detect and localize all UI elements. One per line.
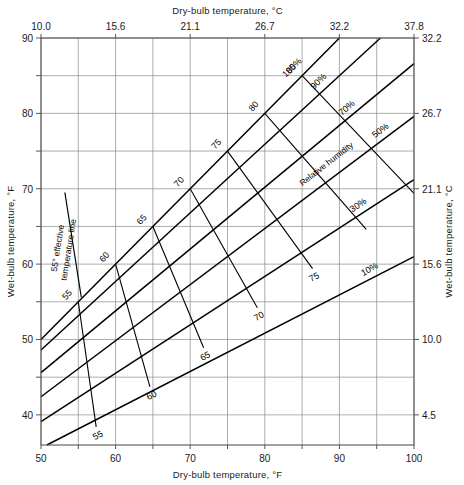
saturation-label-75: 75 xyxy=(209,137,223,151)
x-tick-label-bottom: 100 xyxy=(406,453,423,464)
y-tick-label-right: 21.1 xyxy=(422,184,442,195)
x-tick-label-top: 37.8 xyxy=(404,21,424,32)
x-axis-title-top: Dry-bulb temperature, °C xyxy=(172,5,283,16)
effective-temp-lower-label-70: 70 xyxy=(252,309,266,323)
saturation-label-80: 80 xyxy=(247,99,261,113)
x-tick-label-bottom: 70 xyxy=(185,453,197,464)
effective-temp-lower-labels: 5560657075 xyxy=(91,270,321,442)
rh-percent-labels: 100%90%70%50%30%10% xyxy=(280,56,390,278)
y-tick-label-left: 80 xyxy=(22,108,34,119)
effective-temp-line-55 xyxy=(78,302,96,427)
y-tick-label-right: 32.2 xyxy=(422,33,442,44)
effective-temp-lower-label-75: 75 xyxy=(307,270,321,284)
x-tick-label-bottom: 50 xyxy=(35,453,47,464)
y-tick-label-right: 10.0 xyxy=(422,334,442,345)
y-tick-label-right: 15.6 xyxy=(422,259,442,270)
y-tick-label-left: 60 xyxy=(22,259,34,270)
y-tick-label-left: 90 xyxy=(22,33,34,44)
y-tick-label-right: 4.5 xyxy=(422,410,436,421)
x-tick-label-top: 26.7 xyxy=(255,21,275,32)
y-tick-label-left: 70 xyxy=(22,184,34,195)
effective-temp-lower-label-55: 55 xyxy=(91,428,105,442)
saturation-line-labels: 55606570758085 xyxy=(60,62,298,302)
saturation-label-55: 55 xyxy=(60,288,74,302)
relative-humidity-caption: Relative humidity xyxy=(298,139,356,188)
rh-line-90 xyxy=(41,38,380,350)
y-tick-label-left: 40 xyxy=(22,410,34,421)
grid-lines xyxy=(41,38,414,445)
x-tick-label-bottom: 90 xyxy=(334,453,346,464)
x-tick-label-top: 10.0 xyxy=(31,21,51,32)
saturation-label-60: 60 xyxy=(97,250,111,264)
effective-temp-line-75 xyxy=(228,151,313,269)
y-axis-title-right: Wet-bulb temperature, °C xyxy=(443,185,454,297)
chart-canvas: 55606570758085100%90%70%50%30%10%Relativ… xyxy=(0,0,464,485)
effective-temp-line-60 xyxy=(116,264,150,387)
x-tick-label-bottom: 80 xyxy=(259,453,271,464)
x-tick-label-top: 21.1 xyxy=(180,21,200,32)
effective-temp-lower-label-60: 60 xyxy=(145,389,159,403)
saturation-label-65: 65 xyxy=(135,212,149,226)
y-tick-label-right: 26.7 xyxy=(422,108,442,119)
saturation-label-70: 70 xyxy=(172,175,186,189)
y-tick-label-left: 50 xyxy=(22,334,34,345)
x-tick-label-top: 32.2 xyxy=(330,21,350,32)
x-tick-label-bottom: 60 xyxy=(110,453,122,464)
x-axis-title-bottom: Dry-bulb temperature, °F xyxy=(173,469,282,480)
x-tick-label-top: 15.6 xyxy=(106,21,126,32)
y-axis-title-left: Wet-bulb temperature, °F xyxy=(5,186,16,297)
effective-temp-line-70 xyxy=(190,189,257,308)
psychrometric-chart: 55606570758085100%90%70%50%30%10%Relativ… xyxy=(0,0,464,485)
